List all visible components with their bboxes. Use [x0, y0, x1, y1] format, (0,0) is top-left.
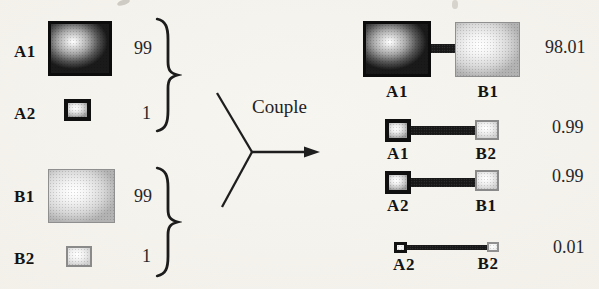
pair3-value: 0.99 — [552, 167, 584, 185]
pair4-right-label: B2 — [472, 255, 504, 272]
b1-swatch-product — [455, 22, 520, 77]
component-label-b1: B1 — [14, 188, 35, 205]
a1-swatch-product — [363, 21, 431, 77]
pair2-right-label: B2 — [470, 145, 502, 162]
component-label-a2: A2 — [14, 105, 36, 122]
amount-b2: 1 — [142, 247, 151, 265]
bond-a2-b1 — [408, 178, 477, 187]
b1-swatch-product-small — [475, 170, 499, 191]
scan-artifact — [117, 0, 131, 7]
amount-a2: 1 — [142, 104, 151, 122]
a2-swatch-product-small — [385, 171, 411, 194]
pair4-value: 0.01 — [553, 238, 585, 256]
pair3-right-label: B1 — [470, 197, 502, 214]
bond-a2-b2 — [404, 245, 490, 250]
bond-a1-b2 — [408, 126, 477, 135]
pair1-value: 98.01 — [545, 38, 586, 56]
pair2-value: 0.99 — [552, 118, 584, 136]
a1-swatch — [48, 21, 112, 76]
b2-swatch-product-tiny — [487, 242, 499, 252]
brace-group-a — [154, 17, 182, 133]
amount-a1: 99 — [134, 39, 152, 57]
coupling-diagram: A1 A2 99 1 B1 B2 99 1 Couple A1 B1 — [0, 0, 599, 289]
b2-swatch-product-small — [475, 120, 499, 140]
component-label-a1: A1 — [14, 43, 36, 60]
brace-group-b — [154, 166, 182, 278]
b1-swatch — [48, 169, 115, 223]
pair1-right-label: B1 — [472, 83, 504, 100]
a2-swatch-product-tiny — [394, 242, 407, 253]
component-label-b2: B2 — [14, 250, 35, 267]
scan-artifact — [452, 0, 458, 9]
a1-swatch-product-small — [385, 119, 411, 142]
process-label: Couple — [252, 97, 307, 116]
a2-swatch — [64, 99, 91, 121]
pair1-left-label: A1 — [381, 83, 413, 100]
b2-swatch — [66, 246, 92, 267]
arrowhead-icon — [304, 147, 320, 158]
amount-b1: 99 — [134, 187, 152, 205]
pair4-left-label: A2 — [388, 256, 420, 273]
pair3-left-label: A2 — [382, 197, 414, 214]
pair2-left-label: A1 — [382, 145, 414, 162]
